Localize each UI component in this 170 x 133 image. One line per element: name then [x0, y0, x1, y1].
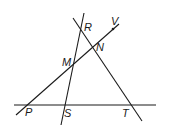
point-label-s: S [64, 107, 72, 119]
geometry-figure: RVNMPST [0, 0, 170, 133]
point-label-r: R [84, 21, 92, 33]
point-label-n: N [96, 41, 104, 53]
point-label-p: P [25, 106, 33, 118]
point-label-t: T [122, 107, 130, 119]
point-v-dot [112, 28, 115, 31]
point-label-m: M [62, 56, 72, 68]
point-label-v: V [111, 15, 120, 27]
line-pv [16, 24, 119, 115]
